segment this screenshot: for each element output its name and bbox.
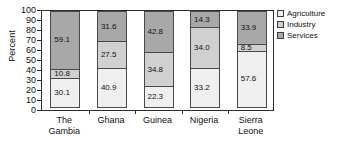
bar-segment-value: 42.8 [145, 28, 164, 36]
bar-segment-agriculture[interactable]: 22.3 [144, 86, 174, 108]
x-tick-label: SierraLeone [219, 115, 283, 137]
bar-segment-value: 14.3 [191, 16, 210, 24]
y-tick-mark [37, 20, 41, 21]
bar-segment-value: 33.2 [191, 84, 210, 92]
bar-segment-agriculture[interactable]: 33.2 [190, 68, 220, 108]
bar-segment-services[interactable]: 14.3 [190, 11, 220, 28]
y-tick-mark [37, 110, 41, 111]
bar-sierra-leone[interactable]: 33.98.557.6 [237, 11, 267, 110]
y-tick-label: 20 [26, 86, 36, 95]
legend-item-services[interactable]: Services [277, 31, 325, 40]
bar-segment-value: 59.1 [51, 36, 70, 44]
y-tick-mark [37, 90, 41, 91]
bar-segment-industry[interactable]: 34.0 [190, 27, 220, 68]
plot-area: 59.110.830.131.627.540.942.834.822.314.3… [41, 10, 274, 111]
legend-swatch-icon [277, 32, 284, 39]
y-tick-label: 0 [31, 106, 36, 115]
y-tick-label: 10 [26, 96, 36, 105]
bar-segment-services[interactable]: 42.8 [144, 11, 174, 53]
y-tick-label: 30 [26, 76, 36, 85]
bar-guinea[interactable]: 42.834.822.3 [144, 11, 174, 110]
x-tick-label-line2: Gambia [32, 126, 96, 137]
x-tick-mark [182, 110, 183, 114]
bar-segment-value: 31.6 [98, 23, 117, 31]
y-tick-mark [37, 70, 41, 71]
bar-segment-services[interactable]: 33.9 [237, 11, 267, 45]
y-tick-label: 60 [26, 46, 36, 55]
bar-segment-services[interactable]: 59.1 [50, 11, 80, 70]
y-tick-label: 100 [21, 6, 36, 15]
bar-segment-value: 10.8 [51, 70, 70, 78]
bar-segment-value: 34.8 [145, 66, 164, 74]
bar-segment-value: 34.0 [191, 44, 210, 52]
y-tick-mark [37, 30, 41, 31]
stacked-bar-chart: Percent 1009080706050403020100 59.110.83… [0, 0, 342, 147]
y-tick-mark [37, 60, 41, 61]
y-tick-label: 50 [26, 56, 36, 65]
legend-label: Services [287, 32, 318, 40]
y-tick-label: 70 [26, 36, 36, 45]
bar-segment-value: 27.5 [98, 51, 117, 59]
bar-segment-value: 40.9 [98, 84, 117, 92]
bar-segment-agriculture[interactable]: 57.6 [237, 51, 267, 108]
y-tick-mark [37, 100, 41, 101]
y-tick-mark [37, 80, 41, 81]
bar-segment-services[interactable]: 31.6 [97, 11, 127, 42]
bar-segment-agriculture[interactable]: 40.9 [97, 68, 127, 108]
x-tick-mark [228, 110, 229, 114]
bar-segment-value: 30.1 [51, 89, 70, 97]
x-tick-mark [89, 110, 90, 114]
bar-ghana[interactable]: 31.627.540.9 [97, 11, 127, 110]
bar-nigeria[interactable]: 14.334.033.2 [190, 11, 220, 110]
bar-the-gambia[interactable]: 59.110.830.1 [50, 11, 80, 110]
x-tick-mark [135, 110, 136, 114]
legend-item-agriculture[interactable]: Agriculture [277, 9, 325, 18]
y-tick-label: 40 [26, 66, 36, 75]
y-tick-mark [37, 10, 41, 11]
y-tick-label: 90 [26, 16, 36, 25]
legend-label: Industry [287, 21, 315, 29]
bar-segment-industry[interactable]: 34.8 [144, 52, 174, 86]
bar-segment-agriculture[interactable]: 30.1 [50, 78, 80, 108]
y-tick-label: 80 [26, 26, 36, 35]
x-axis-tick-labels: TheGambiaGhanaGuineaNigeriaSierraLeone [41, 115, 274, 145]
y-tick-mark [37, 50, 41, 51]
legend-label: Agriculture [287, 10, 325, 18]
y-axis-tick-labels: 1009080706050403020100 [14, 10, 36, 111]
y-tick-mark [37, 40, 41, 41]
bar-segment-value: 57.6 [238, 75, 257, 83]
bar-segment-value: 33.9 [238, 24, 257, 32]
bar-segment-industry[interactable]: 27.5 [97, 41, 127, 68]
x-tick-label-line1: Sierra [219, 115, 283, 126]
legend-item-industry[interactable]: Industry [277, 20, 325, 29]
chart-legend: AgricultureIndustryServices [277, 9, 325, 40]
legend-swatch-icon [277, 10, 284, 17]
legend-swatch-icon [277, 21, 284, 28]
bar-segment-value: 22.3 [145, 93, 164, 101]
x-tick-label-line2: Leone [219, 126, 283, 137]
